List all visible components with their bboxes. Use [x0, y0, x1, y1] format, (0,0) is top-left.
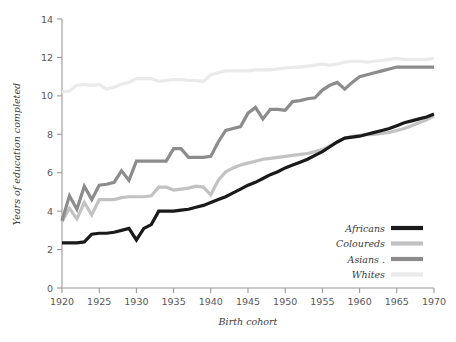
y-tick-label: 12: [41, 52, 53, 63]
x-tick-label: 1920: [50, 296, 74, 307]
x-axis-title: Birth cohort: [218, 316, 278, 327]
legend-label-africans: Africans: [344, 223, 385, 234]
legend-label-asians: Asians .: [347, 254, 385, 265]
x-tick-label: 1935: [162, 296, 186, 307]
series-line-whites: [62, 58, 434, 92]
education-by-birth-cohort-line-chart: 02468101214 1920192519301935194019451950…: [0, 0, 456, 342]
x-tick-label: 1960: [348, 296, 372, 307]
x-tick-label: 1925: [87, 296, 111, 307]
x-tick-label: 1950: [273, 296, 297, 307]
x-tick-label: 1945: [236, 296, 260, 307]
x-tick-label: 1965: [385, 296, 409, 307]
y-axis-ticks: 02468101214: [41, 14, 62, 294]
y-tick-label: 10: [41, 90, 53, 101]
chart-container: 02468101214 1920192519301935194019451950…: [0, 0, 456, 342]
x-tick-label: 1940: [199, 296, 223, 307]
y-tick-label: 2: [47, 244, 53, 255]
y-tick-label: 4: [47, 206, 53, 217]
legend-label-coloureds: Coloureds: [336, 238, 385, 249]
x-tick-label: 1955: [310, 296, 334, 307]
y-axis-title: Years of education completed: [11, 83, 22, 225]
x-axis-ticks: 1920192519301935194019451950195519601965…: [50, 288, 446, 307]
y-tick-label: 14: [41, 14, 53, 25]
y-tick-label: 8: [47, 129, 53, 140]
legend-label-whites: Whites: [352, 269, 385, 280]
x-tick-label: 1970: [422, 296, 446, 307]
x-tick-label: 1930: [124, 296, 148, 307]
chart-legend: AfricansColouredsAsians .Whites: [336, 223, 423, 281]
data-series-group: [62, 58, 434, 242]
y-tick-label: 0: [47, 283, 53, 294]
y-tick-label: 6: [47, 167, 53, 178]
